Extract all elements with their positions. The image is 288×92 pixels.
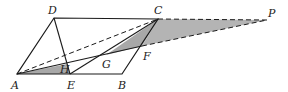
label-g: G	[102, 58, 111, 71]
label-p: P	[267, 7, 276, 20]
label-d: D	[47, 4, 57, 17]
label-h: H	[59, 63, 70, 76]
segment-ec	[70, 19, 158, 74]
geometry-diagram: A E B D C P F G H	[0, 0, 288, 92]
label-b: B	[117, 79, 126, 92]
label-e: E	[66, 79, 75, 92]
segment-af	[17, 46, 142, 74]
label-a: A	[10, 79, 19, 92]
label-c: C	[154, 4, 163, 17]
label-f: F	[142, 50, 151, 63]
